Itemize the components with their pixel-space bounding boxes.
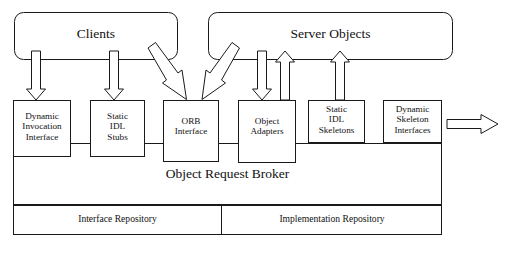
node-dynamic-invocation-interface[interactable] — [13, 100, 71, 157]
node-object-adapters[interactable] — [238, 100, 296, 163]
node-clients[interactable] — [14, 12, 178, 60]
node-static-idl-stubs[interactable] — [90, 100, 145, 157]
node-orb-interface[interactable] — [163, 100, 219, 162]
arrow-dsi-outbound — [447, 115, 498, 134]
node-server-objects[interactable] — [208, 12, 453, 60]
node-dynamic-skeleton-interfaces[interactable] — [383, 100, 442, 143]
node-object-request-broker[interactable] — [13, 163, 442, 205]
corba-architecture-diagram: Clients Server Objects Dynamic Invocatio… — [0, 0, 505, 257]
node-interface-repository[interactable] — [13, 205, 222, 235]
node-implementation-repository[interactable] — [222, 205, 442, 235]
node-static-idl-skeletons[interactable] — [308, 100, 365, 143]
